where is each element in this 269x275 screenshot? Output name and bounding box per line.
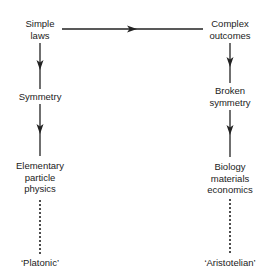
node-broken-symmetry: Broken symmetry bbox=[209, 85, 250, 108]
diagram-canvas: Simple laws Symmetry Elementary particle… bbox=[0, 0, 269, 275]
node-symmetry: Symmetry bbox=[19, 91, 62, 103]
node-label-line: Biology bbox=[207, 161, 252, 173]
node-elementary-particle-physics: Elementary particle physics bbox=[16, 160, 64, 195]
node-label-line: Complex bbox=[209, 18, 250, 30]
node-simple-laws: Simple laws bbox=[25, 18, 54, 41]
node-label-line: materials bbox=[207, 173, 252, 185]
footer-aristotelian: ‘Aristotelian’ bbox=[204, 257, 255, 269]
node-label-line: Broken bbox=[209, 85, 250, 97]
edge-simple-laws-to-complex-outcomes bbox=[62, 26, 203, 33]
edge-symmetry-to-elementary bbox=[37, 104, 44, 156]
node-label-line: economics bbox=[207, 184, 252, 196]
node-complex-outcomes: Complex outcomes bbox=[209, 18, 250, 41]
edge-broken-symmetry-to-biology bbox=[227, 110, 234, 157]
node-label-line: Elementary bbox=[16, 160, 64, 172]
footer-platonic: ‘Platonic’ bbox=[21, 257, 59, 269]
node-label-line: physics bbox=[16, 183, 64, 195]
edge-simple-laws-to-symmetry bbox=[37, 43, 44, 89]
node-biology-materials-economics: Biology materials economics bbox=[207, 161, 252, 196]
node-label-line: Symmetry bbox=[19, 91, 62, 103]
node-label-line: particle bbox=[16, 172, 64, 184]
node-label-line: Simple bbox=[25, 18, 54, 30]
node-label-line: laws bbox=[25, 30, 54, 42]
node-label-line: symmetry bbox=[209, 97, 250, 109]
edge-complex-to-broken-symmetry bbox=[227, 43, 234, 83]
diagram-edges bbox=[0, 0, 269, 275]
node-label-line: outcomes bbox=[209, 30, 250, 42]
